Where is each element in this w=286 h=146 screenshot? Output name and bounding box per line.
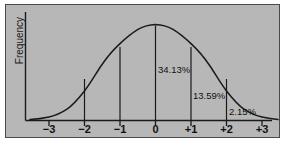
annotation-pct-1359: 13.59%: [193, 90, 225, 101]
x-tick-label-minus2: −2: [73, 123, 97, 135]
sd-divider-lines: [85, 26, 227, 121]
annotation-pct-3413: 34.13%: [158, 64, 190, 75]
x-tick-label-plus3: +3: [250, 123, 274, 135]
bell-curve-svg: [6, 5, 279, 137]
y-axis-label: Frequency: [14, 6, 25, 76]
x-tick-label-zero: 0: [144, 123, 168, 135]
x-tick-label-minus1: −1: [108, 123, 132, 135]
x-tick-label-plus2: +2: [215, 123, 239, 135]
x-tick-label-minus3: −3: [37, 123, 61, 135]
chart-plot-area: Frequency −3 −2 −1 0 +1 +2 +3 34.13% 13.…: [5, 4, 280, 138]
annotation-pct-215: 2.15%: [229, 106, 256, 117]
figure-container: Frequency −3 −2 −1 0 +1 +2 +3 34.13% 13.…: [0, 0, 286, 146]
x-tick-label-plus1: +1: [179, 123, 203, 135]
